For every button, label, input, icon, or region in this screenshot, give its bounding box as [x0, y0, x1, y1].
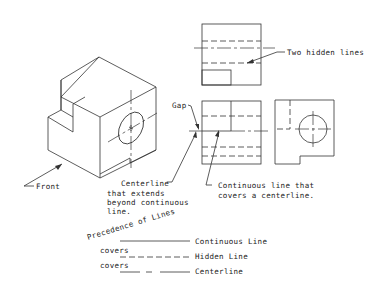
- right-view-outline: [275, 100, 334, 164]
- svg-text:Continuous Line: Continuous Line: [195, 237, 267, 246]
- precedence-legend: Precedence of Lines Continuous Line cove…: [86, 207, 267, 276]
- continuous-leader: [206, 132, 219, 185]
- centerline-leader: [167, 133, 196, 182]
- svg-text:Front: Front: [36, 182, 60, 191]
- top-view: Two hidden lines: [194, 24, 364, 85]
- arrow-head-icon: [55, 164, 62, 170]
- svg-text:Centerline: Centerline: [195, 267, 243, 276]
- svg-text:Two hidden lines: Two hidden lines: [287, 48, 364, 57]
- isometric-block: [48, 57, 157, 178]
- continuous-note: Continuous line that covers a centerline…: [206, 130, 314, 200]
- svg-text:that extends: that extends: [107, 189, 165, 198]
- right-view-hidden: [275, 100, 290, 129]
- svg-text:Continuous line that: Continuous line that: [218, 181, 314, 190]
- centerline-note: Centerline that extends beyond continuou…: [107, 131, 197, 216]
- arrow-head-icon: [247, 59, 254, 63]
- iso-left-outline: [48, 80, 100, 178]
- iso-step: [48, 80, 85, 132]
- line-precedence-diagram: Front Two hidden lines Gap Center: [0, 0, 386, 287]
- iso-top-face: [61, 57, 156, 117]
- front-view: Gap: [172, 101, 270, 164]
- arrow-head-icon: [195, 124, 199, 130]
- svg-text:Gap: Gap: [172, 101, 187, 110]
- svg-text:covers: covers: [100, 246, 129, 255]
- top-view-outline: [202, 24, 261, 85]
- iso-centerline-h: [108, 113, 157, 142]
- svg-text:line.: line.: [107, 207, 131, 216]
- svg-text:covers: covers: [100, 261, 129, 270]
- svg-text:Hidden Line: Hidden Line: [195, 252, 248, 261]
- svg-text:Centerline: Centerline: [121, 179, 169, 188]
- svg-text:covers a centerline.: covers a centerline.: [218, 191, 314, 200]
- right-view: [275, 100, 334, 164]
- front-label: Front: [24, 164, 62, 191]
- arrow-head-icon: [193, 131, 197, 138]
- svg-text:beyond continuous: beyond continuous: [107, 198, 189, 207]
- top-view-step: [202, 70, 231, 85]
- iso-right-outline: [100, 87, 156, 178]
- front-view-outline: [202, 101, 261, 164]
- iso-right-notch: [100, 150, 156, 174]
- iso-center-mark: [129, 125, 133, 131]
